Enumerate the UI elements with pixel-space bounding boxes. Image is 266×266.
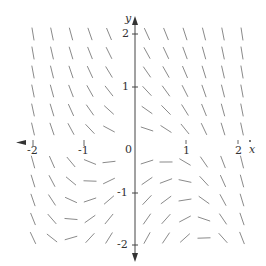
slope-segment [85,215,96,223]
slope-segment [183,28,187,40]
slope-segment [66,177,76,185]
slope-segment [201,123,207,135]
slope-segment [241,47,243,60]
slope-segment [241,104,244,117]
y-axis-label: y [125,13,131,24]
slope-segment [202,28,205,41]
slope-segment [179,180,192,183]
slope-segment [84,160,96,165]
slope-segment [200,157,207,168]
slope-segment [88,47,93,59]
y-tick-label-1: 1 [122,81,129,92]
slope-segment [30,232,36,244]
slope-segment [144,28,149,40]
slope-segment [144,232,150,243]
y-tick-label-neg2: -2 [117,239,128,250]
slope-segment [65,236,78,240]
slope-segment [164,28,169,40]
slope-segment [104,106,114,115]
slope-segment [199,196,210,204]
slope-segment [221,104,224,117]
slope-segment [86,105,93,116]
slope-segment [221,85,224,98]
slope-segment [31,213,36,225]
slope-segment [240,232,245,244]
slope-segment [50,123,54,135]
slope-segment [222,66,225,79]
slope-segment [143,214,150,225]
slope-segment [49,156,54,168]
x-tick-label-neg1: -1 [78,145,89,156]
slope-segment [32,28,34,41]
slope-segment [163,66,169,77]
slope-segment [221,156,226,168]
slope-segment [183,47,187,59]
slope-segment [182,85,188,97]
slope-segment [51,47,54,60]
slope-segment [162,86,170,97]
slope-segment [181,124,189,134]
slope-segment [86,124,95,133]
slope-segment [105,86,113,96]
slope-segment [48,214,57,224]
slope-segment [161,105,170,114]
slope-segment [240,156,243,169]
slope-segment [161,125,172,132]
slope-segment [87,66,92,78]
slope-segment [162,233,169,244]
slope-segment [106,66,113,77]
slope-segment [87,85,93,96]
slope-segment [68,123,74,134]
slope-segment [104,196,114,204]
slope-segment [106,232,113,243]
slope-segment [241,85,243,98]
slope-segment [182,104,189,115]
y-tick-label-neg1: -1 [117,187,128,198]
slope-segment [103,178,115,184]
x-axis-end-dot [249,140,251,142]
slope-segment [31,156,34,169]
slope-segment [180,234,190,243]
slope-segment [179,216,191,222]
slope-segment [162,214,171,224]
slope-segment [202,66,206,78]
y-axis-arrow-down-icon [132,253,138,262]
slope-segment [32,66,34,79]
slope-segment [219,233,228,243]
x-axis-label: x [249,144,255,155]
slope-segment [84,198,96,202]
y-axis-arrow-up-icon [132,16,138,25]
slope-segment [142,106,153,113]
slope-segment [221,123,225,135]
slope-segment [163,47,169,59]
slope-segment [241,28,243,41]
slope-segment [200,176,209,186]
slope-segment [65,197,77,202]
slope-field-plot [0,0,266,266]
slope-segment [222,47,225,60]
x-tick-label-neg2: -2 [27,145,38,156]
slope-segment [69,85,74,97]
slope-segment [144,47,150,58]
x-axis-arrow-left-icon [16,140,26,145]
slope-segment [142,177,153,184]
origin-label: 0 [125,144,132,155]
slope-segment [143,195,152,204]
slope-segment [69,66,73,78]
slope-segment [141,160,153,164]
slope-segment [161,196,171,204]
slope-segment [50,66,53,79]
x-tick-label-2: 2 [235,145,242,156]
slope-segment [220,175,225,187]
slope-segment [32,123,35,136]
y-tick-label-2: 2 [122,28,129,39]
slope-segment [31,194,35,206]
slope-segment [47,234,57,242]
slope-segment [222,28,225,41]
slope-segment [51,28,54,41]
slope-segment [240,175,243,188]
slope-segment [241,123,244,136]
slope-segment [107,28,112,40]
slope-segment [240,194,244,206]
slope-segment [143,67,150,78]
